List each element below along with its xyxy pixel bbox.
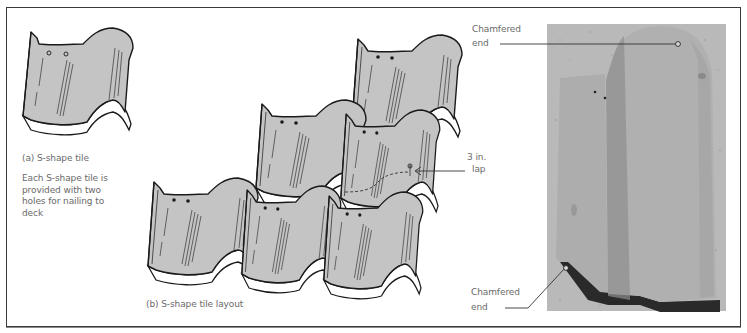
- panel-a-note: Each S-shape tile is provided with two h…: [22, 173, 120, 219]
- lap-label-line2: lap: [472, 164, 485, 176]
- panel-a-caption: (a) S-shape tile: [22, 153, 89, 165]
- s-shape-tile-illustration: [0, 0, 747, 333]
- chamfered-end-top-line2: end: [472, 38, 489, 50]
- tile-layout-drawing: [148, 35, 465, 299]
- tile-photo: [500, 24, 726, 312]
- single-tile-drawing: [23, 28, 133, 135]
- lap-label-line1: 3 in.: [467, 152, 486, 164]
- panel-b-caption: (b) S-shape tile layout: [146, 299, 243, 311]
- chamfered-end-bottom-line1: Chamfered: [471, 287, 520, 299]
- chamfered-end-bottom-line2: end: [471, 302, 488, 314]
- chamfered-end-top-line1: Chamfered: [472, 24, 521, 36]
